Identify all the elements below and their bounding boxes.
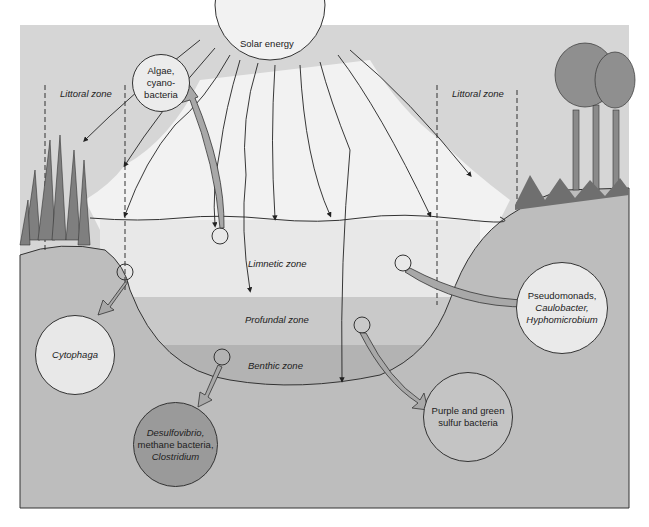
desulfovibrio-circle: Desulfovibrio, methane bacteria, Clostri… xyxy=(133,402,218,487)
purple-green-sulfur-bacteria-circle: Purple and green sulfur bacteria xyxy=(423,372,513,462)
algae-cyanobacteria-circle: Algae, cyano- bacteria xyxy=(132,54,190,112)
pseudomonads-circle: Pseudomonads, Caulobacter, Hyphomicrobiu… xyxy=(516,262,608,354)
limnetic-zone-label: Limnetic zone xyxy=(248,258,307,270)
cytophaga-circle: Cytophaga xyxy=(35,315,115,395)
littoral-zone-left-label: Littoral zone xyxy=(60,88,112,100)
littoral-zone-right-label: Littoral zone xyxy=(452,88,504,100)
sun-label: Solar energy xyxy=(240,38,294,50)
profundal-zone-label: Profundal zone xyxy=(245,314,309,326)
benthic-zone-label: Benthic zone xyxy=(248,360,303,372)
